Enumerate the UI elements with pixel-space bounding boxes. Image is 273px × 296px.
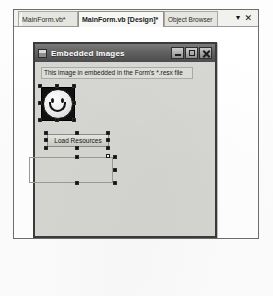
picture-box-smiley[interactable] xyxy=(41,87,75,121)
smiley-face-icon xyxy=(43,89,73,119)
resize-handle-e[interactable] xyxy=(113,168,117,172)
tab-mainform-design[interactable]: MainForm.vb [Design]* xyxy=(78,11,164,27)
form-client-area[interactable]: This image in embedded in the Form's *.r… xyxy=(35,62,215,236)
form-title: Embedded Images xyxy=(51,49,125,58)
resize-handle-e-outer[interactable] xyxy=(113,155,117,159)
tab-label: Object Browser xyxy=(168,16,212,23)
resize-handle-n[interactable] xyxy=(75,131,79,135)
resize-handle-ne[interactable] xyxy=(106,154,110,158)
tab-mainform-vb[interactable]: MainForm.vb* xyxy=(18,11,78,26)
resize-handle-nw[interactable] xyxy=(44,131,48,135)
resize-handle-w[interactable] xyxy=(38,101,42,105)
resize-handle-s[interactable] xyxy=(55,118,59,122)
resize-handle-n[interactable] xyxy=(55,84,59,88)
resize-handle-s[interactable] xyxy=(75,181,79,185)
resize-handle-e[interactable] xyxy=(106,138,110,142)
form-icon xyxy=(38,49,47,58)
resize-handle-n[interactable] xyxy=(75,155,79,159)
tab-label: MainForm.vb [Design]* xyxy=(82,16,158,23)
tab-object-browser[interactable]: Object Browser xyxy=(164,11,218,26)
close-icon[interactable]: ✕ xyxy=(244,12,252,24)
resize-handle-e[interactable] xyxy=(72,101,76,105)
designed-form-window[interactable]: Embedded Images This image in embedded i… xyxy=(33,42,217,238)
form-design-surface[interactable]: Embedded Images This image in embedded i… xyxy=(14,27,258,238)
maximize-button[interactable] xyxy=(185,47,198,59)
resize-handle-s[interactable] xyxy=(75,146,79,150)
resize-handle-nw[interactable] xyxy=(38,84,42,88)
chevron-down-icon[interactable]: ▾ xyxy=(236,12,240,24)
resize-handle-sw[interactable] xyxy=(38,118,42,122)
tab-label: MainForm.vb* xyxy=(22,16,66,23)
resize-handle-se[interactable] xyxy=(106,146,110,150)
ide-document-pane: MainForm.vb* MainForm.vb [Design]* Objec… xyxy=(13,9,259,239)
resize-handle-ne[interactable] xyxy=(106,131,110,135)
smiley-mouth xyxy=(49,102,66,112)
screenshot-root: MainForm.vb* MainForm.vb [Design]* Objec… xyxy=(0,0,273,296)
empty-picture-box[interactable] xyxy=(29,157,113,183)
window-button-group xyxy=(171,47,215,59)
info-label[interactable]: This image in embedded in the Form's *.r… xyxy=(41,67,193,79)
minimize-button[interactable] xyxy=(171,47,184,59)
resize-handle-sw[interactable] xyxy=(44,146,48,150)
document-tab-strip: MainForm.vb* MainForm.vb [Design]* Objec… xyxy=(14,10,258,27)
resize-handle-w[interactable] xyxy=(44,138,48,142)
form-title-bar[interactable]: Embedded Images xyxy=(35,44,215,62)
resize-handle-se[interactable] xyxy=(72,118,76,122)
resize-handle-se[interactable] xyxy=(113,181,117,185)
close-button[interactable] xyxy=(199,47,212,59)
resize-handle-ne[interactable] xyxy=(72,84,76,88)
